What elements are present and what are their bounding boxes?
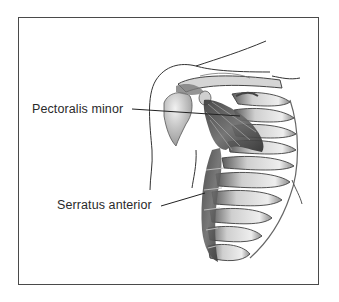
anatomy-illustration xyxy=(0,0,339,302)
humeral-head xyxy=(164,84,211,146)
leader-line-serratus-anterior xyxy=(161,193,205,206)
label-serratus-anterior: Serratus anterior xyxy=(57,198,152,212)
label-pectoralis-minor: Pectoralis minor xyxy=(32,102,123,116)
